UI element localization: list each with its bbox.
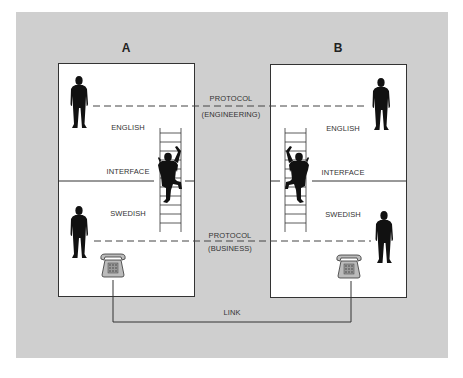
protocol-business-sublabel: (BUSINESS): [208, 244, 252, 253]
person-icon-a-swedish: [71, 206, 89, 258]
protocol-engineering-sublabel: (ENGINEERING): [202, 110, 261, 119]
person-icon-b-swedish: [376, 211, 394, 263]
telephone-icon-a: [101, 254, 125, 277]
diagram-lines: [0, 0, 463, 378]
box-b-interface-label: INTERFACE: [322, 168, 365, 177]
person-icon-b-english: [373, 78, 391, 130]
person-icon-a-english: [71, 76, 89, 128]
climber-icon-b: [285, 146, 309, 203]
protocol-business-label: PROTOCOL: [209, 231, 252, 240]
climber-icon-a: [158, 146, 182, 203]
box-b-english-label: ENGLISH: [326, 124, 360, 133]
protocol-engineering-label: PROTOCOL: [210, 94, 253, 103]
link-label: LINK: [223, 308, 240, 317]
box-b-swedish-label: SWEDISH: [325, 210, 361, 219]
box-a-english-label: ENGLISH: [111, 123, 145, 132]
box-a-interface-label: INTERFACE: [107, 167, 150, 176]
box-a-swedish-label: SWEDISH: [110, 209, 146, 218]
telephone-icon-b: [337, 255, 361, 278]
